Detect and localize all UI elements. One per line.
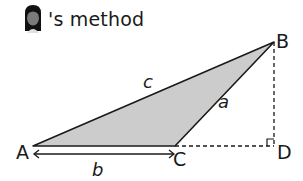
side-label-a: a: [218, 91, 229, 112]
vertex-label-c: C: [173, 148, 186, 170]
right-angle-marker: [267, 139, 274, 146]
triangle-abc: [33, 42, 274, 146]
vertex-label-b: B: [276, 30, 289, 52]
side-label-c: c: [143, 71, 153, 92]
length-arrow-b: [34, 150, 174, 158]
side-label-b: b: [92, 159, 103, 180]
vertex-label-d: D: [277, 141, 292, 163]
vertex-label-a: A: [16, 141, 29, 163]
triangle-diagram: A B C D a b c: [0, 0, 303, 181]
